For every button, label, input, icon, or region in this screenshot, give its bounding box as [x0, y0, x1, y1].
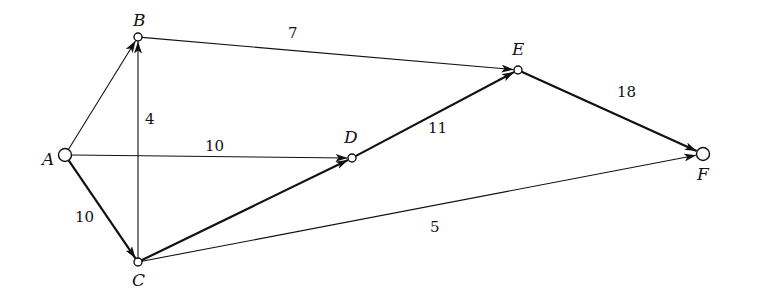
network-diagram: 74101011185ABCDEF: [0, 0, 775, 308]
edge-c-f: [142, 155, 696, 261]
edge-d-e: [356, 72, 514, 156]
edge-a-d: [71, 155, 347, 158]
labels-group: 74101011185ABCDEF: [40, 10, 710, 290]
edge-a-b: [68, 41, 135, 150]
edge-c-d: [142, 160, 348, 260]
edge-weight-e-f: 18: [617, 83, 636, 101]
node-a: [59, 149, 72, 162]
node-c: [134, 258, 142, 266]
node-label-e: E: [511, 39, 525, 59]
node-b: [134, 33, 142, 41]
edge-weight-c-f: 5: [430, 218, 440, 236]
node-label-b: B: [132, 10, 146, 30]
edge-weight-a-c: 10: [75, 208, 94, 226]
edges-group: [68, 37, 696, 261]
nodes-group: [59, 33, 710, 266]
node-label-d: D: [343, 127, 358, 147]
edge-weight-c-b: 4: [145, 110, 155, 128]
edge-weight-a-d: 10: [205, 137, 224, 155]
node-label-f: F: [696, 164, 710, 184]
node-label-a: A: [40, 149, 54, 169]
edge-e-f: [522, 72, 697, 151]
node-f: [697, 148, 710, 161]
node-e: [514, 66, 522, 74]
edge-weight-d-e: 11: [428, 119, 447, 137]
node-d: [348, 154, 356, 162]
edge-weight-b-e: 7: [288, 24, 298, 42]
edge-b-e: [142, 37, 514, 69]
node-label-c: C: [132, 270, 145, 290]
